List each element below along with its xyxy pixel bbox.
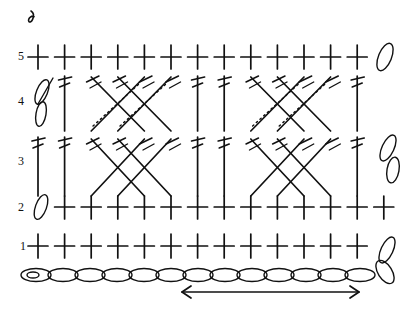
foundation-chain bbox=[21, 257, 398, 286]
repeat-arrow bbox=[182, 286, 359, 298]
start-chain-loop-icon bbox=[29, 11, 34, 22]
row-1-stitches bbox=[28, 234, 367, 258]
row-label-4: 4 bbox=[18, 95, 24, 107]
turning-chain-right-row3-icon bbox=[377, 133, 402, 184]
row-2-stitches bbox=[55, 196, 394, 219]
row-3-stitches bbox=[32, 137, 364, 196]
crochet-chart: 5 4 3 2 1 bbox=[0, 0, 417, 309]
row-5-stitches bbox=[28, 45, 367, 69]
crochet-chart-canvas bbox=[0, 0, 417, 309]
turning-chain-left-row4-icon bbox=[32, 78, 53, 127]
row-label-1: 1 bbox=[20, 240, 26, 252]
row-4-stitches bbox=[59, 76, 365, 131]
turning-chain-left-row2-icon bbox=[31, 193, 50, 221]
row-label-5: 5 bbox=[18, 50, 24, 62]
row-label-3: 3 bbox=[18, 155, 24, 167]
turning-chain-right-row5-icon bbox=[374, 41, 397, 73]
row-label-2: 2 bbox=[18, 201, 24, 213]
